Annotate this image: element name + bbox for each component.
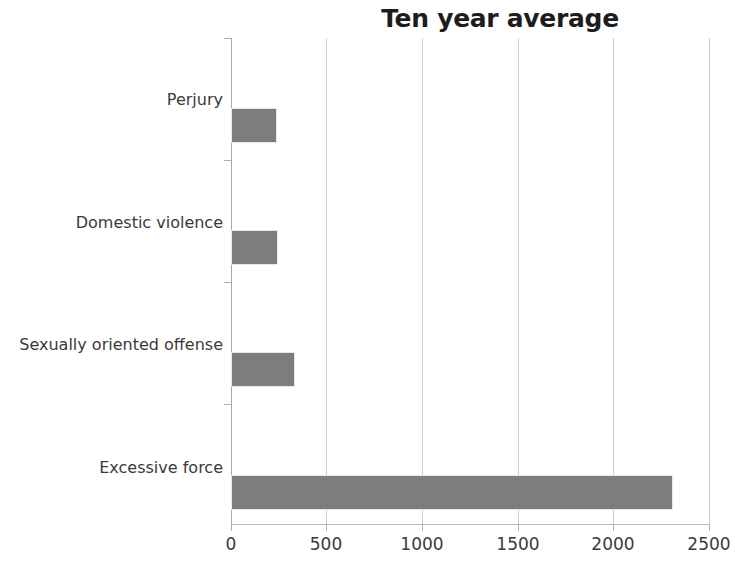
category-tick-1	[224, 160, 231, 161]
x-axis-label-1000: 1000	[387, 534, 457, 554]
x-tick-0	[231, 524, 232, 531]
category-tick-top	[224, 38, 231, 39]
category-label-perjury: Perjury	[167, 90, 223, 109]
category-label-excessive-force: Excessive force	[99, 458, 223, 477]
x-axis-label-0: 0	[196, 534, 266, 554]
x-tick-1000	[422, 524, 423, 531]
gridline-2000	[613, 38, 614, 524]
x-axis-label-2500: 2500	[674, 534, 735, 554]
gridline-500	[326, 38, 327, 524]
x-axis-label-500: 500	[291, 534, 361, 554]
category-tick-2	[224, 282, 231, 283]
x-axis-label-1500: 1500	[483, 534, 553, 554]
bar-domestic-violence	[231, 230, 278, 265]
x-tick-2000	[613, 524, 614, 531]
category-label-sexually-oriented-offense: Sexually oriented offense	[19, 335, 223, 354]
plot-area	[231, 38, 709, 524]
bar-excessive-force	[231, 475, 673, 510]
chart-title: Ten year average	[330, 4, 670, 33]
x-axis-label-2000: 2000	[578, 534, 648, 554]
bar-perjury	[231, 108, 277, 143]
axis-line-category	[231, 524, 709, 525]
category-label-domestic-violence: Domestic violence	[76, 213, 223, 232]
gridline-2500	[709, 38, 710, 524]
x-tick-500	[326, 524, 327, 531]
x-tick-2500	[709, 524, 710, 531]
bar-sexually-oriented-offense	[231, 352, 295, 387]
gridline-1000	[422, 38, 423, 524]
category-tick-3	[224, 404, 231, 405]
gridline-1500	[518, 38, 519, 524]
x-tick-1500	[518, 524, 519, 531]
